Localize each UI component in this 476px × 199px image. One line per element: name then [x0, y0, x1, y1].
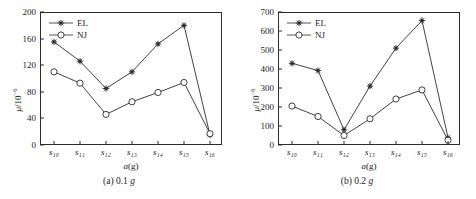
- data-point-marker: [129, 99, 135, 105]
- y-axis-label-a: μ/10−6: [11, 88, 23, 111]
- panel-caption-prefix-a: (a) 0.1: [103, 176, 130, 186]
- y-tick-mark: [278, 126, 282, 127]
- y-axis-label-var-a: μ: [13, 106, 23, 111]
- legend-marker-open-circle-b: [286, 29, 312, 41]
- y-axis-label-unit-a: /10: [13, 95, 23, 107]
- x-tick-label: s₁₅: [179, 148, 189, 157]
- y-axis-label-exponent-a: −6: [11, 88, 18, 95]
- legend-a: EL NJ: [48, 17, 88, 41]
- data-point-marker: [181, 22, 187, 28]
- legend-item-el-b: EL: [286, 17, 326, 29]
- legend-label-el-b: EL: [315, 19, 326, 28]
- plot-area-b: EL NJ 0100200300400500600700s₁₀s₁₁s₁₂s₁₃…: [278, 12, 460, 145]
- x-tick-mark: [422, 141, 423, 145]
- x-tick-label: s₁₃: [365, 148, 375, 157]
- data-point-marker: [103, 111, 109, 117]
- y-tick-label: 120: [23, 61, 37, 70]
- y-tick-label: 500: [261, 46, 275, 55]
- legend-marker-filled-star-b: [286, 17, 312, 29]
- data-point-marker: [419, 17, 425, 23]
- x-tick-mark: [318, 141, 319, 145]
- x-tick-label: s₁₂: [101, 148, 111, 157]
- x-tick-mark: [448, 141, 449, 145]
- y-tick-label: 100: [261, 122, 275, 131]
- panel-caption-b: (b) 0.2 g: [238, 176, 476, 186]
- data-point-marker: [77, 58, 83, 64]
- x-tick-label: s₁₁: [313, 148, 323, 157]
- data-point-marker: [155, 89, 161, 95]
- data-point-marker: [207, 131, 213, 137]
- x-tick-label: s₁₆: [443, 148, 453, 157]
- data-point-marker: [77, 80, 83, 86]
- legend-marker-open-circle-a: [48, 29, 74, 41]
- data-point-marker: [289, 103, 295, 109]
- y-tick-label: 0: [32, 141, 37, 150]
- x-tick-mark: [106, 141, 107, 145]
- legend-label-el-a: EL: [77, 19, 88, 28]
- y-tick-label: 600: [261, 27, 275, 36]
- y-tick-mark: [40, 38, 44, 39]
- y-tick-label: 300: [261, 84, 275, 93]
- x-tick-mark: [184, 141, 185, 145]
- x-tick-mark: [132, 141, 133, 145]
- legend-marker-filled-star-a: [48, 17, 74, 29]
- y-tick-label: 0: [270, 141, 275, 150]
- y-tick-label: 400: [261, 65, 275, 74]
- y-tick-label: 80: [27, 87, 36, 96]
- legend-label-nj-b: NJ: [315, 31, 325, 40]
- x-axis-label-unit-a: (g): [128, 161, 139, 171]
- plot-area-a: EL NJ 04080120160200s₁₀s₁₁s₁₂s₁₃s₁₄s₁₅s₁…: [40, 12, 222, 145]
- y-tick-mark: [278, 12, 282, 13]
- y-tick-mark: [40, 145, 44, 146]
- data-point-marker: [51, 69, 57, 75]
- data-point-marker: [289, 60, 295, 66]
- x-tick-mark: [210, 141, 211, 145]
- x-tick-label: s₁₁: [75, 148, 85, 157]
- y-tick-label: 160: [23, 34, 37, 43]
- y-tick-mark: [278, 31, 282, 32]
- x-tick-label: s₁₀: [287, 148, 297, 157]
- x-tick-mark: [158, 141, 159, 145]
- x-tick-label: s₁₆: [205, 148, 215, 157]
- legend-item-nj-b: NJ: [286, 29, 326, 41]
- y-tick-mark: [278, 69, 282, 70]
- chart-panel-b: μ/10−6 EL: [238, 0, 476, 199]
- x-tick-mark: [80, 141, 81, 145]
- legend-b: EL NJ: [286, 17, 326, 41]
- panel-caption-unit-b: g: [368, 176, 373, 186]
- y-tick-mark: [278, 88, 282, 89]
- y-tick-label: 700: [261, 8, 275, 17]
- legend-item-el-a: EL: [48, 17, 88, 29]
- data-point-marker: [419, 87, 425, 93]
- x-tick-label: s₁₅: [417, 148, 427, 157]
- y-tick-mark: [278, 50, 282, 51]
- data-point-marker: [341, 132, 347, 138]
- legend-label-nj-a: NJ: [77, 31, 87, 40]
- chart-panel-a: μ/10−6 EL: [0, 0, 238, 199]
- y-tick-mark: [40, 65, 44, 66]
- y-tick-mark: [40, 12, 44, 13]
- x-tick-mark: [54, 141, 55, 145]
- x-axis-label-unit-b: (g): [366, 161, 377, 171]
- data-point-marker: [155, 41, 161, 47]
- x-tick-mark: [292, 141, 293, 145]
- y-tick-label: 200: [23, 8, 37, 17]
- y-tick-mark: [40, 91, 44, 92]
- data-point-marker: [393, 45, 399, 51]
- x-tick-label: s₁₂: [339, 148, 349, 157]
- x-axis-label-b: a(g): [278, 161, 460, 171]
- panel-caption-a: (a) 0.1 g: [0, 176, 238, 186]
- data-point-marker: [103, 85, 109, 91]
- x-tick-label: s₁₄: [153, 148, 163, 157]
- x-tick-mark: [344, 141, 345, 145]
- x-tick-label: s₁₃: [127, 148, 137, 157]
- x-axis-label-a: a(g): [40, 161, 222, 171]
- y-tick-label: 40: [27, 114, 36, 123]
- data-point-marker: [367, 83, 373, 89]
- legend-item-nj-a: NJ: [48, 29, 88, 41]
- y-tick-mark: [40, 118, 44, 119]
- data-point-marker: [129, 69, 135, 75]
- data-point-marker: [367, 116, 373, 122]
- data-point-marker: [315, 67, 321, 73]
- y-axis-label-exponent-b: −6: [249, 88, 256, 95]
